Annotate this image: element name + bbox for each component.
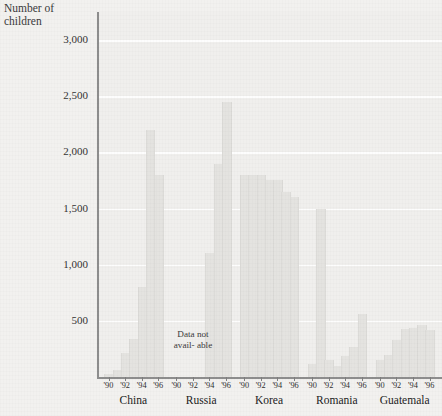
y-axis-tick-label: 2,000 <box>30 145 88 157</box>
gridline <box>97 96 442 98</box>
x-axis-year-label: '96 <box>284 381 304 390</box>
bar <box>154 175 164 377</box>
y-axis-tick-label: 1,500 <box>30 202 88 214</box>
x-axis-year-label: '96 <box>420 381 440 390</box>
y-axis-tick-label: 3,000 <box>30 33 88 45</box>
bar-chart: Number of children The national origin o… <box>0 0 442 416</box>
plot-area <box>97 12 442 377</box>
bar <box>425 330 435 377</box>
bar <box>222 102 232 377</box>
y-axis-tick-label: 1,000 <box>30 258 88 270</box>
x-axis-group-label: Guatemala <box>362 394 442 406</box>
x-axis-year-label: '96 <box>352 381 372 390</box>
gridline <box>97 40 442 42</box>
bar <box>290 197 300 377</box>
y-axis-line <box>97 12 99 378</box>
bar <box>316 209 326 377</box>
bar <box>358 314 368 377</box>
no-data-note: Data not avail- able <box>168 329 218 350</box>
x-axis-line <box>97 377 442 379</box>
x-axis-year-label: '96 <box>148 381 168 390</box>
y-axis-tick-label: 500 <box>30 314 88 326</box>
x-axis-year-label: '96 <box>216 381 236 390</box>
y-axis-tick-label: 2,500 <box>30 89 88 101</box>
y-axis-title: Number of children <box>4 2 54 28</box>
